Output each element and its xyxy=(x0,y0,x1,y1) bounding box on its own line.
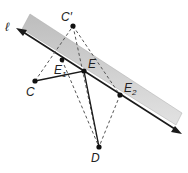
point-e xyxy=(81,68,86,73)
label-c-prime: C′ xyxy=(61,10,73,24)
mirror-band xyxy=(22,14,182,125)
line-l xyxy=(20,30,178,131)
label-d: D xyxy=(91,151,100,165)
diagram-canvas: ℓ C′ C E1 E E2 D xyxy=(0,0,188,173)
point-c-prime xyxy=(70,23,75,28)
path-c-e-d xyxy=(35,71,99,147)
label-line-l: ℓ xyxy=(5,20,10,34)
point-e1 xyxy=(60,58,65,63)
point-d xyxy=(96,144,101,149)
point-c xyxy=(32,78,37,83)
reflection-diagram: ℓ C′ C E1 E E2 D xyxy=(0,0,188,173)
label-c: C xyxy=(26,85,35,99)
label-e: E xyxy=(88,57,97,71)
point-e2 xyxy=(117,92,122,97)
